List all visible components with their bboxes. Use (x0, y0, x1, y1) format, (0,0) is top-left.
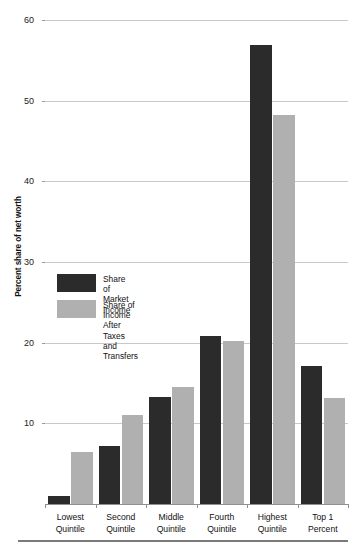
gridline (45, 20, 348, 21)
bar (99, 446, 121, 504)
plot-area: 102030405060 (45, 20, 348, 504)
y-tick-mark (42, 101, 45, 102)
x-axis-label: Second Quintile (96, 512, 147, 535)
y-tick-label: 20 (0, 338, 34, 348)
bar (250, 45, 272, 504)
y-tick-label: 40 (0, 176, 34, 186)
bar (71, 452, 93, 504)
bar (273, 115, 295, 504)
x-tick-mark (298, 504, 299, 508)
gridline (45, 101, 348, 102)
y-tick-mark (42, 262, 45, 263)
y-tick-mark (42, 20, 45, 21)
x-tick-mark (247, 504, 248, 508)
x-tick-mark (348, 504, 349, 508)
bar (223, 341, 245, 504)
bar (301, 366, 323, 504)
legend-item-label: Share of Income After Taxes and Transfer… (103, 300, 138, 361)
bar (324, 398, 346, 504)
x-axis-label: Top 1 Percent (298, 512, 349, 535)
y-tick-label: 10 (0, 418, 34, 428)
x-tick-mark (197, 504, 198, 508)
y-tick-mark (42, 181, 45, 182)
legend-swatch-icon (57, 300, 96, 318)
bar (200, 336, 222, 504)
legend-item-after-taxes-transfers: Share of Income After Taxes and Transfer… (57, 300, 138, 361)
x-axis-label: Lowest Quintile (45, 512, 96, 535)
y-tick-mark (42, 423, 45, 424)
y-tick-label: 50 (0, 96, 34, 106)
x-tick-mark (96, 504, 97, 508)
bar (149, 397, 171, 504)
bar-chart: Percent share of net worth 102030405060 … (0, 0, 356, 549)
gridline (45, 262, 348, 263)
y-tick-label: 60 (0, 15, 34, 25)
y-tick-label: 30 (0, 257, 34, 267)
gridline (45, 181, 348, 182)
y-tick-mark (42, 343, 45, 344)
legend-swatch-icon (57, 274, 96, 292)
x-axis-label: Middle Quintile (146, 512, 197, 535)
footer-divider (18, 540, 348, 542)
x-axis-label: Fourth Quintile (197, 512, 248, 535)
bar (122, 415, 144, 504)
bar (172, 387, 194, 504)
x-tick-mark (45, 504, 46, 508)
bar (48, 496, 70, 504)
y-axis-title: Percent share of net worth (14, 177, 23, 317)
x-tick-mark (146, 504, 147, 508)
x-axis-label: Highest Quintile (247, 512, 298, 535)
